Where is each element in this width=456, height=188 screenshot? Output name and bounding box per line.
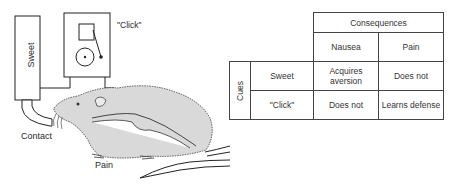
cell-click-pain: Learns defense <box>379 91 444 120</box>
cell-sweet-pain: Does not <box>379 62 444 91</box>
spout-icon <box>22 100 52 126</box>
contact-label: Contact <box>21 131 52 141</box>
apparatus-illustration: Sweet "Click" Contact Pain <box>0 0 230 188</box>
cues-row-group-label: Cues <box>230 62 251 120</box>
consequences-header: Consequences <box>314 13 444 33</box>
row-header-click: "Click" <box>251 91 314 120</box>
sweet-label: Sweet <box>26 35 36 75</box>
table-row: Cues Sweet Acquires aversion Does not <box>230 62 444 91</box>
column-header-pain: Pain <box>379 33 444 62</box>
table-row: "Click" Does not Learns defense <box>230 91 444 120</box>
pain-label: Pain <box>95 160 113 170</box>
rat-apparatus-drawing <box>0 0 230 188</box>
row-header-sweet: Sweet <box>251 62 314 91</box>
cell-sweet-nausea: Acquires aversion <box>314 62 379 91</box>
click-box-icon <box>64 13 110 77</box>
click-label: "Click" <box>117 20 141 30</box>
column-header-nausea: Nausea <box>314 33 379 62</box>
cell-click-nausea: Does not <box>314 91 379 120</box>
cue-consequence-table: Consequences Nausea Pain Cues Sweet Acqu… <box>229 12 444 120</box>
